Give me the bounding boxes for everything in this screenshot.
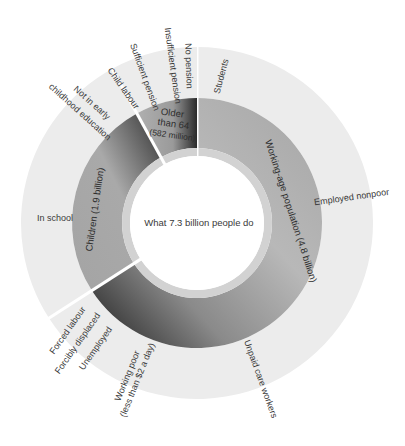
label-no-pension: No pension — [183, 43, 195, 89]
sunburst-chart: What 7.3 billion people do Working-age p… — [0, 0, 405, 446]
label-in-school: In school — [37, 213, 73, 223]
center-title: What 7.3 billion people do — [144, 217, 253, 228]
